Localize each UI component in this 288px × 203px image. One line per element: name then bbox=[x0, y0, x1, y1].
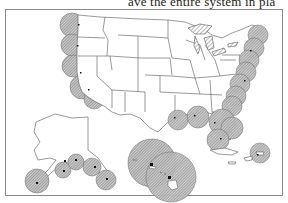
alaska-map bbox=[25, 114, 116, 193]
coverage-map bbox=[0, 0, 288, 203]
hawaii-coverage bbox=[128, 139, 196, 202]
